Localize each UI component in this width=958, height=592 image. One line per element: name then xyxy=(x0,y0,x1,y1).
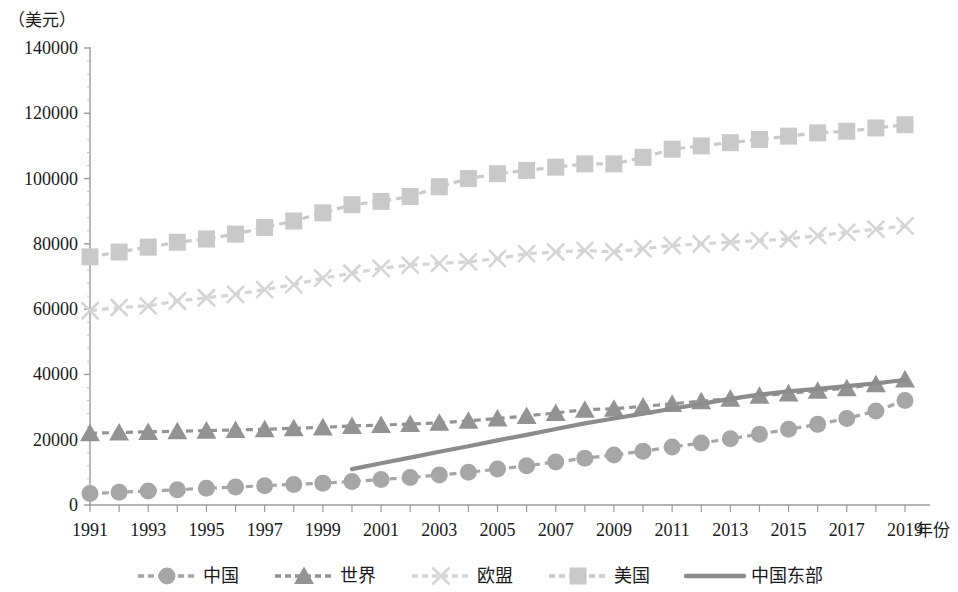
x-axis-tick-label: 2017 xyxy=(829,520,865,540)
legend-item[interactable]: 欧盟 xyxy=(410,566,513,586)
legend-item[interactable]: 中国东部 xyxy=(684,566,823,586)
x-axis-tick-label: 1993 xyxy=(130,520,166,540)
x-axis-tick-label: 2015 xyxy=(771,520,807,540)
legend-label: 中国东部 xyxy=(751,566,823,586)
legend-swatch xyxy=(136,566,198,586)
x-axis-tick-labels: 1991199319951997199920012003200520072009… xyxy=(0,0,958,592)
x-axis-tick-label: 2001 xyxy=(363,520,399,540)
chart-legend: 中国世界欧盟美国中国东部 xyxy=(0,560,958,592)
x-axis-tick-label: 2013 xyxy=(712,520,748,540)
legend-label: 美国 xyxy=(614,566,650,586)
x-axis-tick-label: 2007 xyxy=(538,520,574,540)
x-axis-tick-label: 1991 xyxy=(72,520,108,540)
legend-label: 中国 xyxy=(203,566,239,586)
legend-label: 世界 xyxy=(340,566,376,586)
x-axis-tick-label: 1999 xyxy=(305,520,341,540)
gdp-per-capita-line-chart: （美元） 02000040000600008000010000012000014… xyxy=(0,0,958,592)
legend-item[interactable]: 美国 xyxy=(547,566,650,586)
x-axis-tick-label: 2009 xyxy=(596,520,632,540)
legend-item[interactable]: 中国 xyxy=(136,566,239,586)
x-axis-tick-label: 2011 xyxy=(654,520,689,540)
x-axis-title: 年份 xyxy=(916,521,950,541)
square-marker xyxy=(569,568,586,585)
circle-marker xyxy=(158,568,175,585)
x-axis-tick-label: 1997 xyxy=(247,520,283,540)
legend-item[interactable]: 世界 xyxy=(273,566,376,586)
legend-label: 欧盟 xyxy=(477,566,513,586)
legend-swatch xyxy=(684,566,746,586)
legend-swatch xyxy=(273,566,335,586)
legend-swatch xyxy=(547,566,609,586)
x-axis-tick-label: 2005 xyxy=(480,520,516,540)
x-axis-tick-label: 1995 xyxy=(188,520,224,540)
legend-swatch xyxy=(410,566,472,586)
x-axis-tick-label: 2003 xyxy=(421,520,457,540)
